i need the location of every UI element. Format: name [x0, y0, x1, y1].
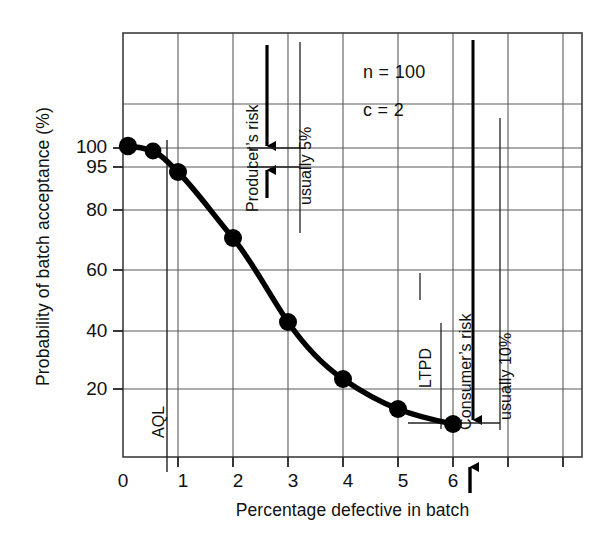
annotation-producers-risk: Producer’s risk [244, 104, 262, 212]
y-tick-label-20: 20 [47, 378, 107, 400]
oc-curve-points [119, 137, 462, 433]
annotation-producers-risk-value: usually 5% [297, 127, 315, 205]
x-tick-label-4: 4 [328, 470, 368, 492]
x-tick-label-5: 5 [383, 470, 423, 492]
annotation-consumers-risk: Consumer’s risk [457, 314, 475, 431]
y-tick-label-80: 80 [47, 199, 107, 221]
annotation-ltpd: LTPD [417, 348, 435, 388]
x-tick-label-1: 1 [163, 470, 203, 492]
x-tick-label-2: 2 [218, 470, 258, 492]
annotation-aql: AQL [150, 406, 168, 438]
chart-canvas: 100 95 80 60 40 20 0 1 2 3 4 5 6 Probabi… [0, 0, 611, 543]
annotation-consumers-risk-value: usually 10% [497, 333, 515, 420]
x-tick-label-3: 3 [273, 470, 313, 492]
y-axis-title: Probability of batch acceptance (%) [33, 37, 54, 457]
oc-curve-line [128, 146, 453, 424]
annotation-sample-size: n = 100 [363, 62, 426, 83]
y-tick-label-60: 60 [47, 259, 107, 281]
x-tick-label-6: 6 [433, 470, 473, 492]
annotation-acceptance-number: c = 2 [363, 100, 404, 121]
y-tick-label-40: 40 [47, 320, 107, 342]
y-tick-label-95: 95 [47, 156, 107, 178]
x-tick-label-0: 0 [103, 470, 143, 492]
x-axis-title: Percentage defective in batch [123, 500, 582, 521]
y-tick-label-100: 100 [47, 136, 107, 158]
